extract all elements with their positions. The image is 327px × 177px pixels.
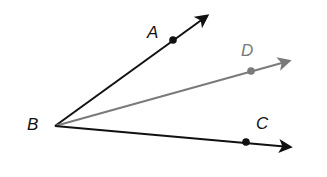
angle-diagram: A D C B	[0, 0, 327, 177]
point-c	[242, 138, 250, 146]
label-d: D	[241, 41, 253, 60]
label-c: C	[256, 114, 269, 133]
label-b: B	[27, 115, 38, 134]
ray-bc	[55, 126, 290, 147]
label-a: A	[146, 23, 158, 42]
point-a	[169, 36, 177, 44]
ray-ba	[55, 16, 207, 126]
point-d	[247, 67, 255, 75]
